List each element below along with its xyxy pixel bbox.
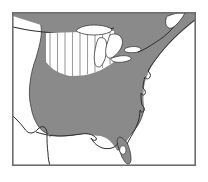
gulf-of-mexico-field [30,136,118,166]
map-canvas [0,0,208,182]
lake-okeechobee [120,146,126,155]
range-map-figure: Eastern North America Continuous range H… [0,0,208,182]
